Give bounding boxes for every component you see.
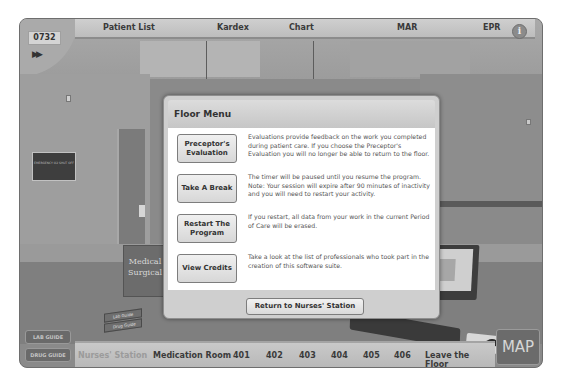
restart-program-button[interactable]: Restart The Program: [177, 214, 237, 243]
restart-program-description: If you restart, all data from your work …: [248, 213, 432, 230]
button-label: Restart The Program: [178, 220, 236, 238]
tab-patient-list[interactable]: Patient List: [103, 23, 155, 32]
return-to-nurses-station-button[interactable]: Return to Nurses' Station: [246, 298, 364, 315]
tab-kardex[interactable]: Kardex: [217, 23, 249, 32]
lab-guide-button[interactable]: LAB GUIDE: [25, 330, 71, 344]
floor-menu-dialog: Floor Menu Preceptor's Evaluation Evalua…: [163, 95, 440, 319]
leave-floor-link[interactable]: Leave the Floor: [425, 351, 495, 368]
location-room-405[interactable]: 405: [363, 351, 380, 360]
preceptors-evaluation-button[interactable]: Preceptor's Evaluation: [177, 134, 237, 163]
fast-forward-icon[interactable]: ▶▶: [32, 49, 40, 59]
take-a-break-button[interactable]: Take A Break: [177, 174, 237, 203]
ceiling-divider: [206, 41, 207, 79]
wall-light-icon: [66, 95, 71, 102]
tab-epr[interactable]: EPR: [483, 23, 501, 32]
medical-surgical-book[interactable]: Medical Surgical: [123, 245, 167, 297]
location-room-402[interactable]: 402: [266, 351, 283, 360]
app-window: EMERGENCY O2 SHUT OFF Medical Surgical L…: [19, 18, 543, 368]
location-room-404[interactable]: 404: [331, 351, 348, 360]
wall-light-icon: [526, 119, 531, 125]
info-icon[interactable]: i: [512, 24, 527, 39]
preceptors-evaluation-description: Evaluations provide feedback on the work…: [248, 133, 432, 159]
dialog-title: Floor Menu: [174, 109, 231, 119]
map-button[interactable]: MAP: [496, 329, 540, 365]
ceiling-panel: [350, 41, 470, 77]
emergency-o2-sign: EMERGENCY O2 SHUT OFF: [32, 152, 76, 181]
sanitizer-bottle: [139, 205, 145, 217]
top-navigation: Patient List Kardex Chart MAR EPR: [75, 19, 535, 39]
dialog-body: Preceptor's Evaluation Evaluations provi…: [168, 128, 435, 290]
button-label: View Credits: [182, 264, 232, 273]
guidebooks-stack[interactable]: Lab Guide Drug Guide: [104, 311, 144, 331]
location-room-403[interactable]: 403: [299, 351, 316, 360]
view-credits-button[interactable]: View Credits: [177, 254, 237, 283]
location-room-406[interactable]: 406: [394, 351, 411, 360]
ceiling-divider: [313, 41, 314, 79]
view-credits-description: Take a look at the list of professionals…: [248, 253, 432, 270]
button-label: Take A Break: [181, 184, 232, 193]
button-label: Preceptor's Evaluation: [178, 140, 236, 158]
clock-display: 0732: [28, 31, 61, 45]
dialog-header: Floor Menu: [168, 100, 435, 128]
location-medication-room[interactable]: Medication Room: [153, 351, 231, 360]
tab-chart[interactable]: Chart: [289, 23, 314, 32]
clock-area: 0732 ▶▶: [20, 19, 80, 74]
take-a-break-description: The timer will be paused until you resum…: [248, 173, 432, 199]
door: [117, 129, 145, 249]
location-bar: Nurses' Station Medication Room 401 402 …: [75, 341, 495, 368]
ceiling-panel: [140, 41, 260, 77]
drug-guide-button[interactable]: DRUG GUIDE: [25, 348, 71, 362]
location-nurses-station[interactable]: Nurses' Station: [78, 351, 147, 360]
tab-mar[interactable]: MAR: [397, 23, 417, 32]
location-room-401[interactable]: 401: [233, 351, 250, 360]
